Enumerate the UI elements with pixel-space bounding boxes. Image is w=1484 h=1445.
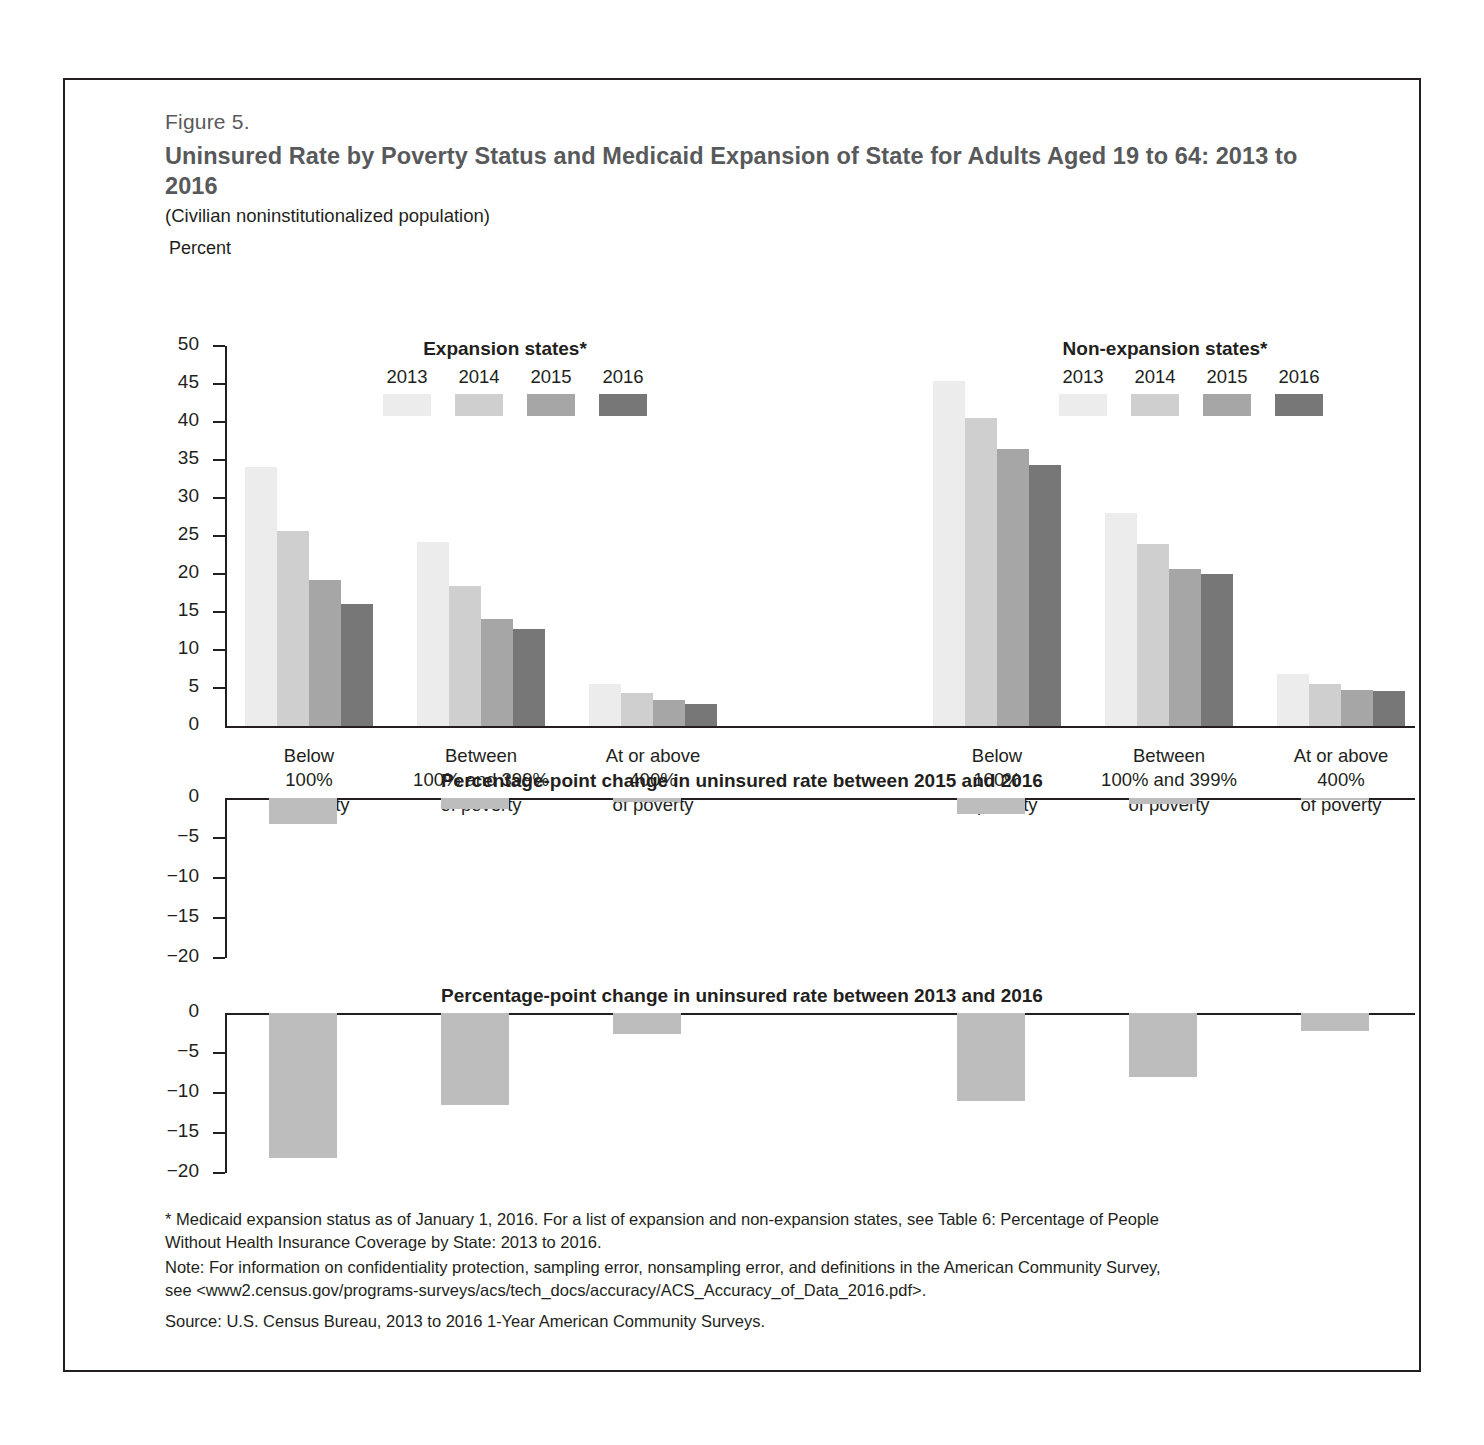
main-bar-chart: Percent 05101520253035404550 Expansion s… xyxy=(65,80,1419,780)
change-y-tick xyxy=(213,957,225,959)
main-y-tick-label: 50 xyxy=(155,333,199,355)
main-y-tick-label: 30 xyxy=(155,485,199,507)
main-y-tick xyxy=(213,383,225,385)
bar-non-expansion-states--2014-cat0 xyxy=(965,418,997,726)
main-y-tick-label: 10 xyxy=(155,637,199,659)
chg2-zero-line xyxy=(225,1013,1415,1015)
bar-non-expansion-states--2016-cat2 xyxy=(1373,691,1405,726)
main-y-tick xyxy=(213,687,225,689)
legend-year-label: 2013 xyxy=(381,366,433,388)
category-label-line: Below xyxy=(209,744,409,768)
main-y-tick-label: 5 xyxy=(155,675,199,697)
bar-expansion-states--2015-cat0 xyxy=(309,580,341,726)
change-bar-expansion-states--cat2 xyxy=(613,1013,681,1034)
change-y-tick-label: −5 xyxy=(147,1040,199,1062)
change-y-tick xyxy=(213,1132,225,1134)
bar-expansion-states--2013-cat1 xyxy=(417,542,449,726)
bar-non-expansion-states--2015-cat1 xyxy=(1169,569,1201,726)
main-y-tick xyxy=(213,573,225,575)
bar-non-expansion-states--2016-cat0 xyxy=(1029,465,1061,726)
legend-year-label: 2015 xyxy=(525,366,577,388)
change-bar-expansion-states--cat2 xyxy=(613,798,681,802)
figure-page: Figure 5. Uninsured Rate by Poverty Stat… xyxy=(0,0,1484,1445)
y-axis-unit-label: Percent xyxy=(169,238,231,259)
bar-non-expansion-states--2015-cat0 xyxy=(997,449,1029,726)
change-bar-non-expansion-states--cat1 xyxy=(1129,1013,1197,1077)
bar-non-expansion-states--2014-cat2 xyxy=(1309,684,1341,726)
change-2015-2016-title: Percentage-point change in uninsured rat… xyxy=(65,770,1419,792)
main-y-tick-label: 0 xyxy=(155,713,199,735)
category-label-line: At or above xyxy=(1241,744,1441,768)
change-y-tick-label: −10 xyxy=(147,865,199,887)
bar-non-expansion-states--2016-cat1 xyxy=(1201,574,1233,726)
main-y-tick-label: 15 xyxy=(155,599,199,621)
footnote-star-line2: Without Health Insurance Coverage by Sta… xyxy=(165,1231,1365,1254)
bar-expansion-states--2014-cat1 xyxy=(449,586,481,726)
change-bar-non-expansion-states--cat2 xyxy=(1301,1013,1369,1031)
category-label-line: Between xyxy=(381,744,581,768)
legend-year-label: 2016 xyxy=(1273,366,1325,388)
bar-expansion-states--2013-cat0 xyxy=(245,467,277,726)
footnote-note-line2: see <www2.census.gov/programs-surveys/ac… xyxy=(165,1279,1385,1302)
change-bar-expansion-states--cat0 xyxy=(269,798,337,824)
change-bar-expansion-states--cat1 xyxy=(441,1013,509,1105)
change-bar-expansion-states--cat1 xyxy=(441,798,509,809)
legend-year-label: 2014 xyxy=(1129,366,1181,388)
main-y-tick-label: 25 xyxy=(155,523,199,545)
change-bar-non-expansion-states--cat0 xyxy=(957,798,1025,814)
main-y-tick xyxy=(213,497,225,499)
footnote-star-line1: * Medicaid expansion status as of Januar… xyxy=(165,1208,1365,1231)
change-bar-non-expansion-states--cat2 xyxy=(1301,798,1369,800)
legend-swatch-2013 xyxy=(1059,394,1107,416)
bar-expansion-states--2016-cat1 xyxy=(513,629,545,726)
change-y-tick xyxy=(213,1092,225,1094)
legend-year-label: 2015 xyxy=(1201,366,1253,388)
change-y-tick-label: −10 xyxy=(147,1080,199,1102)
bar-expansion-states--2013-cat2 xyxy=(589,684,621,726)
change-y-tick xyxy=(213,1172,225,1174)
category-label-line: Between xyxy=(1069,744,1269,768)
legend-swatch-2015 xyxy=(1203,394,1251,416)
footnote-source: Source: U.S. Census Bureau, 2013 to 2016… xyxy=(165,1310,1365,1333)
bar-non-expansion-states--2013-cat1 xyxy=(1105,513,1137,726)
legend-year-label: 2013 xyxy=(1057,366,1109,388)
legend-swatch-2016 xyxy=(1275,394,1323,416)
main-y-tick-label: 35 xyxy=(155,447,199,469)
change-y-tick-label: 0 xyxy=(147,785,199,807)
chg2-y-axis xyxy=(225,1013,227,1173)
category-label-line: At or above xyxy=(553,744,753,768)
change-bar-non-expansion-states--cat1 xyxy=(1129,798,1197,804)
change-y-tick-label: −20 xyxy=(147,945,199,967)
bar-expansion-states--2014-cat0 xyxy=(277,531,309,726)
change-y-tick-label: −5 xyxy=(147,825,199,847)
main-y-tick xyxy=(213,535,225,537)
footnote-note: Note: For information on confidentiality… xyxy=(165,1256,1385,1303)
footnote-note-line1: Note: For information on confidentiality… xyxy=(165,1256,1385,1279)
legend-swatch-2016 xyxy=(599,394,647,416)
bar-expansion-states--2016-cat2 xyxy=(685,704,717,726)
legend-year-label: 2014 xyxy=(453,366,505,388)
main-y-axis xyxy=(225,346,227,728)
category-label-line: of poverty xyxy=(1069,793,1269,817)
legend-swatch-2014 xyxy=(455,394,503,416)
change-bar-expansion-states--cat0 xyxy=(269,1013,337,1158)
change-2013-2016-title: Percentage-point change in uninsured rat… xyxy=(65,985,1419,1007)
bar-expansion-states--2014-cat2 xyxy=(621,693,653,726)
chg1-zero-line xyxy=(225,798,1415,800)
bar-non-expansion-states--2015-cat2 xyxy=(1341,690,1373,726)
bar-expansion-states--2016-cat0 xyxy=(341,604,373,726)
main-y-tick xyxy=(213,421,225,423)
change-y-tick-label: −15 xyxy=(147,1120,199,1142)
bar-expansion-states--2015-cat1 xyxy=(481,619,513,726)
change-y-tick-label: 0 xyxy=(147,1000,199,1022)
bar-non-expansion-states--2013-cat0 xyxy=(933,381,965,726)
footnote-star: * Medicaid expansion status as of Januar… xyxy=(165,1208,1365,1255)
legend-swatch-2015 xyxy=(527,394,575,416)
main-y-tick-label: 20 xyxy=(155,561,199,583)
legend-year-label: 2016 xyxy=(597,366,649,388)
legend-left-title: Expansion states* xyxy=(355,338,655,360)
change-bar-non-expansion-states--cat0 xyxy=(957,1013,1025,1101)
legend-swatch-2014 xyxy=(1131,394,1179,416)
bar-expansion-states--2015-cat2 xyxy=(653,700,685,726)
main-y-tick-label: 40 xyxy=(155,409,199,431)
